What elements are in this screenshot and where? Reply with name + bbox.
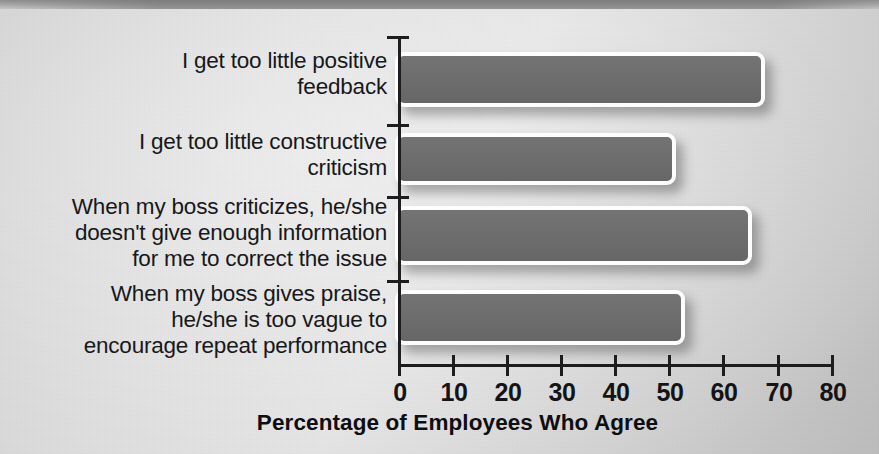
y-axis-tick-2	[387, 280, 409, 283]
x-axis-tick-40	[614, 355, 617, 376]
bar-1-shading	[399, 137, 672, 181]
x-axis-tick-label-20: 20	[481, 378, 535, 407]
x-axis-tick-label-60: 60	[697, 378, 751, 407]
category-label-2: When my boss criticizes, he/she doesn't …	[72, 194, 387, 272]
x-axis-tick-label-70: 70	[752, 378, 806, 407]
bar-chart-figure: I get too little positive feedback I get…	[0, 0, 879, 454]
x-axis-tick-10	[452, 355, 455, 376]
x-axis-tick-label-0: 0	[373, 378, 427, 407]
category-label-3: When my boss gives praise, he/she is too…	[84, 281, 387, 359]
y-axis-tick-1	[387, 196, 409, 199]
bar-0	[395, 52, 765, 107]
category-label-0: I get too little positive feedback	[182, 48, 387, 100]
x-axis-tick-0	[398, 355, 401, 376]
x-axis-tick-20	[506, 355, 509, 376]
bar-0-shading	[399, 56, 761, 103]
x-axis-title: Percentage of Employees Who Agree	[0, 410, 879, 436]
bar-3-shading	[399, 294, 681, 341]
category-label-1: I get too little constructive criticism	[139, 129, 387, 181]
y-axis-line	[398, 36, 401, 367]
y-axis-tick-top	[387, 36, 409, 39]
x-axis-tick-70	[777, 355, 780, 376]
x-axis-tick-50	[668, 355, 671, 376]
y-axis-tick-0	[387, 124, 409, 127]
x-axis-tick-label-50: 50	[643, 378, 697, 407]
x-axis-tick-label-40: 40	[589, 378, 643, 407]
x-axis-tick-80	[831, 355, 834, 376]
bar-1	[395, 133, 676, 185]
x-axis-tick-label-80: 80	[806, 378, 860, 407]
x-axis-tick-60	[722, 355, 725, 376]
x-axis-tick-label-30: 30	[535, 378, 589, 407]
bar-2-shading	[399, 210, 748, 261]
x-axis-tick-30	[560, 355, 563, 376]
plot-area: I get too little positive feedback I get…	[0, 0, 879, 454]
bar-3	[395, 290, 685, 345]
x-axis-tick-label-10: 10	[427, 378, 481, 407]
bar-2	[395, 206, 752, 265]
